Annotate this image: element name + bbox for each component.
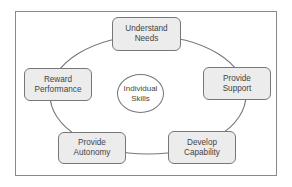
node-label-line1: Provide bbox=[223, 74, 251, 84]
node-develop-capability: Develop Capability bbox=[168, 131, 236, 164]
node-label-line1: Provide bbox=[78, 138, 106, 148]
node-label-line2: Needs bbox=[135, 34, 159, 44]
node-label-line1: Understand bbox=[125, 24, 167, 34]
node-provide-autonomy: Provide Autonomy bbox=[58, 132, 126, 164]
node-label-line2: Support bbox=[223, 84, 252, 94]
node-understand-needs: Understand Needs bbox=[112, 17, 181, 51]
center-label-line2: Skills bbox=[131, 94, 150, 104]
node-label-line1: Reward bbox=[44, 75, 72, 85]
center-label-line1: Individual bbox=[124, 84, 158, 94]
node-label-line2: Performance bbox=[35, 85, 82, 95]
node-reward-performance: Reward Performance bbox=[24, 68, 92, 101]
node-label-line2: Autonomy bbox=[74, 148, 111, 158]
node-label-line2: Capability bbox=[184, 148, 220, 158]
center-node-individual-skills: Individual Skills bbox=[117, 74, 164, 113]
node-provide-support: Provide Support bbox=[203, 67, 271, 100]
node-label-line1: Develop bbox=[187, 138, 217, 148]
